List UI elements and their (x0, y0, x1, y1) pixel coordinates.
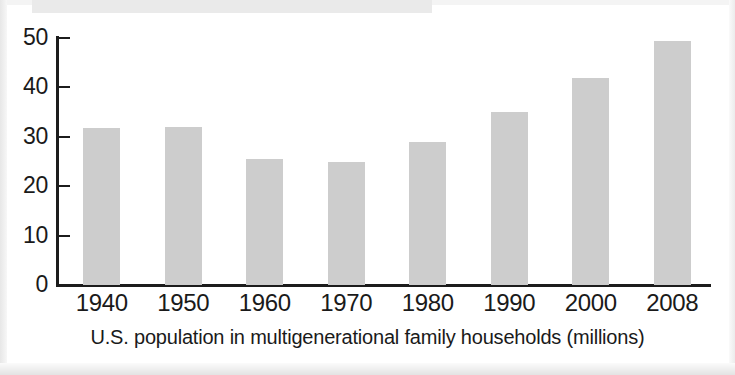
bar (409, 142, 446, 285)
x-axis-tick-label: 2000 (551, 291, 631, 315)
x-axis-tick-label: 1980 (388, 291, 468, 315)
bar (491, 112, 528, 285)
x-axis-line (56, 284, 711, 287)
bar (654, 41, 691, 285)
y-axis-tick-label: 30 (0, 125, 48, 148)
chart-caption: U.S. population in multigenerational fam… (0, 326, 735, 349)
y-axis-tick (57, 136, 70, 138)
y-axis-tick-label: 20 (0, 174, 48, 197)
y-axis-tick-label: 10 (0, 224, 48, 247)
y-axis-tick (57, 284, 70, 286)
bar (328, 162, 365, 285)
y-axis-tick (57, 86, 70, 88)
bar-chart: 01020304050 1940195019601970198019902000… (0, 0, 735, 375)
x-axis-tick-label: 1970 (306, 291, 386, 315)
x-axis-tick-label: 1950 (143, 291, 223, 315)
y-axis-tick-label: 50 (0, 26, 48, 49)
x-axis-tick-label: 2008 (632, 291, 712, 315)
x-axis-tick-label: 1960 (225, 291, 305, 315)
figure-page: 01020304050 1940195019601970198019902000… (0, 0, 735, 375)
bar (165, 127, 202, 285)
x-axis-tick-label: 1990 (469, 291, 549, 315)
y-axis-tick (57, 37, 70, 39)
x-axis-tick-label: 1940 (62, 291, 142, 315)
y-axis-tick-label: 40 (0, 75, 48, 98)
bar (572, 78, 609, 285)
y-axis-line (56, 36, 59, 287)
y-axis-tick (57, 235, 70, 237)
bar (83, 128, 120, 285)
y-axis-tick (57, 185, 70, 187)
bar (246, 159, 283, 285)
y-axis-tick-label: 0 (0, 273, 48, 296)
